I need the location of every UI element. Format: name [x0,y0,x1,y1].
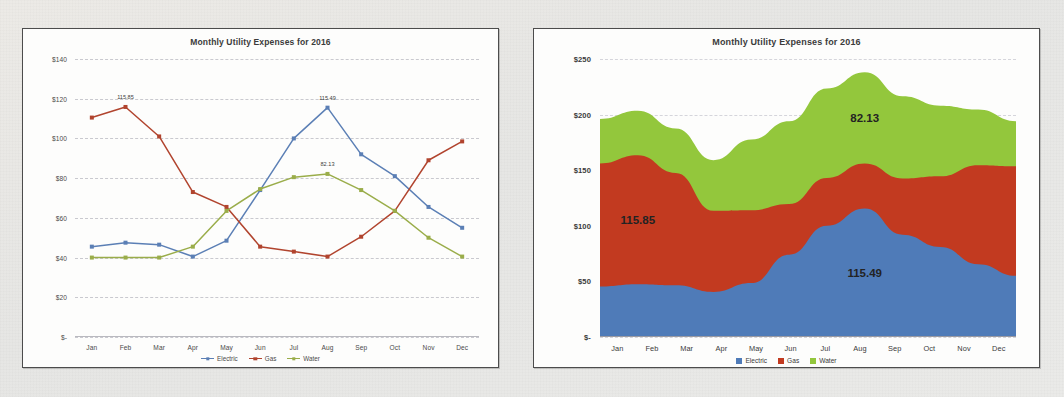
data-point-marker [460,226,464,230]
data-point-marker [359,152,363,156]
data-point-marker [427,205,431,209]
y-axis-tick-label: $100 [52,135,75,142]
data-point-marker [326,106,330,110]
x-axis-tick-label: Sep [877,344,912,353]
data-point-marker [124,105,128,109]
legend-label: Water [819,357,836,364]
legend-item-water[interactable]: Water [287,355,320,362]
y-axis-tick-label: $250 [574,55,600,64]
data-point-marker [90,245,94,249]
legend-item-electric[interactable]: Electric [201,355,238,362]
x-axis-tick-label: Aug [843,344,878,353]
data-point-marker [359,235,363,239]
legend-item-gas[interactable]: Gas [778,357,799,364]
data-point-marker [225,205,229,209]
x-axis-tick-label: Oct [912,344,947,353]
data-point-marker [427,158,431,162]
data-label-82-13: 82.13 [850,112,879,124]
data-point-marker [427,236,431,240]
data-point-marker [90,256,94,260]
data-point-marker [191,255,195,259]
area-chart-panel[interactable]: Monthly Utility Expenses for 2016 $-$50$… [533,28,1040,368]
y-axis-tick-label: $150 [574,166,600,175]
legend-line-marker-icon [249,358,262,359]
data-point-marker [326,255,330,259]
x-axis-tick-label: Nov [412,344,446,351]
legend-item-electric[interactable]: Electric [736,357,767,364]
legend-line-marker-icon [201,358,214,359]
legend-swatch-icon [736,358,742,364]
x-axis-tick-label: Sep [344,344,378,351]
y-axis-tick-label: $- [584,333,600,342]
line-chart-panel[interactable]: Monthly Utility Expenses for 2016 $-$20$… [22,28,499,368]
data-point-marker [225,239,229,243]
legend-item-water[interactable]: Water [810,357,836,364]
y-axis-tick-label: $- [61,334,75,341]
x-axis-tick-label: Jan [600,344,635,353]
data-point-marker [191,245,195,249]
y-axis-tick-label: $60 [56,214,75,221]
x-axis-tick-label: Jun [773,344,808,353]
x-axis-tick-label: Dec [445,344,479,351]
x-axis-tick-label: Aug [311,344,345,351]
left-chart-title: Monthly Utility Expenses for 2016 [23,37,498,47]
line-series-electric [92,108,462,257]
legend-label: Water [303,355,320,362]
x-axis-tick-label: Feb [109,344,143,351]
x-axis-tick-label: Dec [981,344,1016,353]
right-chart-plot-area: $-$50$100$150$200$250 115.8582.13115.49 … [600,59,1016,337]
left-chart-series [75,59,479,337]
right-chart-title: Monthly Utility Expenses for 2016 [534,37,1039,47]
legend-swatch-icon [778,358,784,364]
x-axis-tick-label: Jun [243,344,277,351]
data-point-marker [292,250,296,254]
legend-line-marker-icon [287,358,300,359]
right-chart-legend[interactable]: ElectricGasWater [534,357,1039,364]
x-axis-tick-label: Nov [947,344,982,353]
x-axis-tick-label: Jul [277,344,311,351]
data-point-marker [292,175,296,179]
right-chart-series [600,59,1016,337]
y-axis-tick-label: $100 [574,221,600,230]
data-point-marker [124,256,128,260]
y-axis-tick-label: $20 [56,294,75,301]
data-point-marker [225,209,229,213]
data-point-marker [258,187,262,191]
data-point-marker [393,209,397,213]
y-axis-tick-label: $80 [56,175,75,182]
x-axis-tick-label: Jul [808,344,843,353]
data-point-marker [157,134,161,138]
x-axis-tick-label: Jan [75,344,109,351]
data-point-marker [326,172,330,176]
right-x-axis-labels: JanFebMarAprMayJunJulAugSepOctNovDec [600,337,1016,353]
legend-label: Electric [217,355,238,362]
data-point-marker [460,255,464,259]
data-label-115-49: 115.49 [847,267,882,279]
data-point-marker [258,245,262,249]
legend-label: Gas [265,355,277,362]
x-axis-tick-label: Apr [176,344,210,351]
legend-label: Electric [745,357,767,364]
data-point-marker [124,241,128,245]
data-point-marker [191,190,195,194]
data-label-115-85: 115.85 [621,214,656,226]
legend-label: Gas [787,357,799,364]
legend-swatch-icon [810,358,816,364]
left-chart-plot-area: $-$20$40$60$80$100$120$140 115.85115.498… [75,59,479,337]
x-axis-tick-label: Oct [378,344,412,351]
data-label-115-49: 115.49 [319,95,336,101]
data-label-115-85: 115.85 [117,94,134,100]
y-axis-tick-label: $120 [52,95,75,102]
left-x-axis-labels: JanFebMarAprMayJunJulAugSepOctNovDec [75,337,479,351]
x-axis-tick-label: Apr [704,344,739,353]
y-axis-tick-label: $140 [52,56,75,63]
y-axis-tick-label: $200 [574,110,600,119]
x-axis-tick-label: Mar [669,344,704,353]
data-point-marker [359,188,363,192]
data-point-marker [157,243,161,247]
data-point-marker [460,139,464,143]
legend-item-gas[interactable]: Gas [249,355,277,362]
data-point-marker [157,256,161,260]
y-axis-tick-label: $50 [578,277,600,286]
left-chart-legend[interactable]: ElectricGasWater [23,355,498,362]
